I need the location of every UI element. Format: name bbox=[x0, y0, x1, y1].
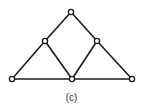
graph-nodes bbox=[9, 9, 134, 81]
graph-edges bbox=[12, 12, 132, 79]
node-bottom-right bbox=[129, 76, 134, 81]
edge-left-mid-bottom-left bbox=[12, 41, 45, 79]
edge-right-mid-bottom-center bbox=[72, 41, 97, 79]
node-bottom-left bbox=[9, 76, 14, 81]
edge-top-right-mid bbox=[71, 12, 97, 41]
edge-right-mid-bottom-right bbox=[97, 41, 132, 79]
node-top bbox=[68, 9, 73, 14]
node-left-mid bbox=[42, 38, 47, 43]
node-bottom-center bbox=[69, 76, 74, 81]
edge-top-left-mid bbox=[45, 12, 71, 41]
edge-left-mid-bottom-center bbox=[45, 41, 72, 79]
node-right-mid bbox=[94, 38, 99, 43]
figure-caption: (c) bbox=[0, 92, 143, 103]
